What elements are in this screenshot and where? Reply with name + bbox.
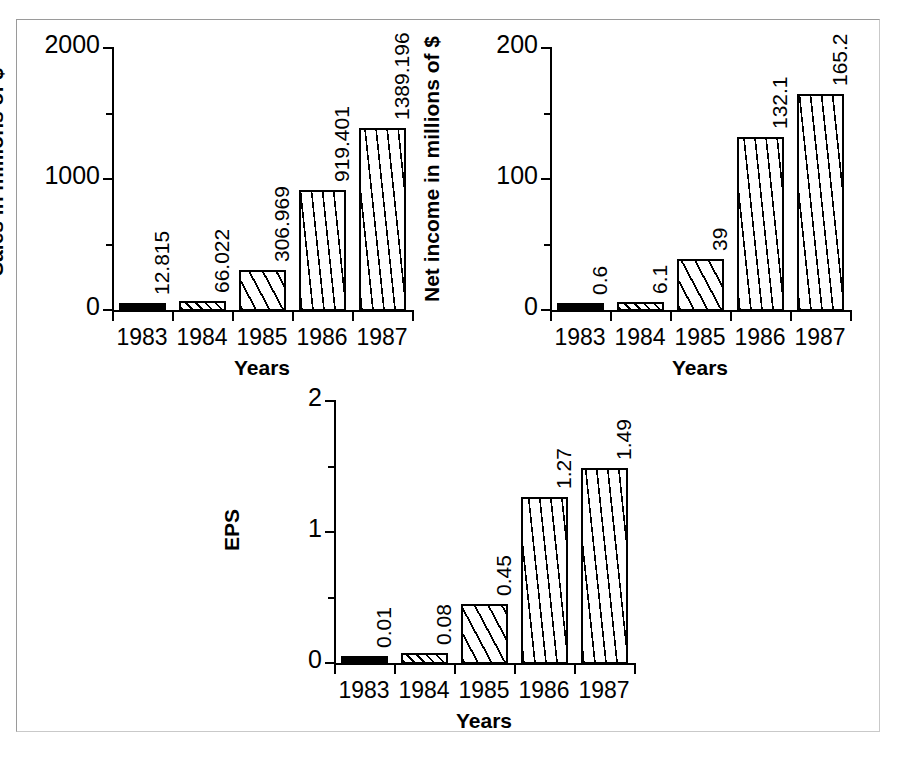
bar-1984: [179, 301, 226, 311]
x-tick: [850, 311, 852, 321]
bar-1987: [797, 94, 844, 311]
x-tick-label-1987: 1987: [352, 324, 412, 351]
bar-1985: [677, 259, 724, 311]
x-tick-label-1986: 1986: [514, 677, 574, 704]
y-tick-label: 100: [440, 161, 538, 190]
bar-value-label: 0.01: [372, 607, 396, 648]
bar-1985: [239, 270, 286, 311]
x-tick: [670, 311, 672, 321]
bar-1987: [359, 128, 406, 311]
x-tick-label-1984: 1984: [394, 677, 454, 704]
x-tick-label-1985: 1985: [232, 324, 292, 351]
chart-panel-eps: EPS0120.0119830.0819840.4519851.2719861.…: [262, 378, 662, 728]
x-tick-label-1986: 1986: [292, 324, 352, 351]
x-tick: [292, 311, 294, 321]
bar-1985: [461, 604, 508, 664]
y-tick-label: 1000: [2, 161, 100, 190]
bar-1987: [581, 468, 628, 664]
bar-1983: [341, 656, 388, 664]
y-tick-label: 2000: [2, 30, 100, 59]
bar-value-label: 0.6: [588, 266, 612, 295]
y-tick-label: 0: [224, 645, 322, 674]
bar-1984: [401, 653, 448, 664]
x-tick: [610, 311, 612, 321]
bar-1986: [737, 137, 784, 311]
bar-1983: [119, 303, 166, 311]
bar-value-label: 1.27: [552, 448, 576, 489]
y-tick-minor: [106, 244, 114, 246]
bar-value-label: 0.45: [492, 555, 516, 596]
x-tick: [634, 664, 636, 674]
chart-panel-net-income: Net income in millions of $01002000.6198…: [478, 30, 878, 375]
x-tick-label-1984: 1984: [610, 324, 670, 351]
figure-page: Sales in millions of $01000200012.815198…: [0, 0, 898, 760]
x-axis-title: Years: [550, 356, 850, 380]
y-tick-major: [325, 400, 336, 402]
y-tick-minor: [544, 244, 552, 246]
y-axis-line: [550, 48, 552, 312]
y-tick-major: [541, 47, 552, 49]
y-tick-label: 1: [224, 514, 322, 543]
y-tick-major: [325, 531, 336, 533]
bar-1986: [299, 190, 346, 311]
x-tick-label-1985: 1985: [454, 677, 514, 704]
x-tick: [574, 664, 576, 674]
x-tick-label-1984: 1984: [172, 324, 232, 351]
x-tick: [172, 311, 174, 321]
bar-value-label: 1389.196: [390, 32, 414, 120]
y-tick-minor: [328, 466, 336, 468]
bar-value-label: 0.08: [432, 604, 456, 645]
bar-1983: [557, 303, 604, 311]
x-axis-title: Years: [334, 709, 634, 733]
y-tick-minor: [544, 113, 552, 115]
x-tick: [514, 664, 516, 674]
x-tick: [394, 664, 396, 674]
x-tick-label-1983: 1983: [334, 677, 394, 704]
y-axis-line: [112, 48, 114, 312]
bar-value-label: 39: [708, 228, 732, 251]
x-tick-label-1987: 1987: [790, 324, 850, 351]
y-axis-line: [334, 401, 336, 665]
bar-value-label: 165.2: [828, 33, 852, 86]
y-tick-label: 0: [440, 292, 538, 321]
x-tick: [112, 311, 114, 321]
bar-value-label: 66.022: [210, 229, 234, 293]
y-tick-minor: [328, 597, 336, 599]
x-tick-label-1985: 1985: [670, 324, 730, 351]
x-tick: [352, 311, 354, 321]
x-tick: [334, 664, 336, 674]
x-tick: [232, 311, 234, 321]
x-tick-label-1986: 1986: [730, 324, 790, 351]
y-tick-major: [103, 47, 114, 49]
bar-value-label: 132.1: [768, 76, 792, 129]
x-tick: [412, 311, 414, 321]
bar-value-label: 919.401: [330, 106, 354, 182]
x-tick-label-1987: 1987: [574, 677, 634, 704]
bar-value-label: 306.969: [270, 186, 294, 262]
bar-1986: [521, 497, 568, 664]
y-tick-label: 200: [440, 30, 538, 59]
y-tick-major: [541, 178, 552, 180]
bar-1984: [617, 302, 664, 311]
y-tick-minor: [106, 113, 114, 115]
chart-panel-sales: Sales in millions of $01000200012.815198…: [40, 30, 440, 375]
y-tick-label: 2: [224, 383, 322, 412]
bar-value-label: 6.1: [648, 265, 672, 294]
x-tick-label-1983: 1983: [550, 324, 610, 351]
y-tick-label: 0: [2, 292, 100, 321]
x-tick: [454, 664, 456, 674]
y-tick-major: [103, 178, 114, 180]
x-axis-title: Years: [112, 356, 412, 380]
bar-value-label: 1.49: [612, 419, 636, 460]
x-tick: [550, 311, 552, 321]
x-tick: [790, 311, 792, 321]
bar-value-label: 12.815: [150, 231, 174, 295]
x-tick-label-1983: 1983: [112, 324, 172, 351]
x-tick: [730, 311, 732, 321]
